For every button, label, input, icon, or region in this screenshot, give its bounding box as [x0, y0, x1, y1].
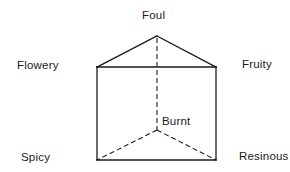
edge-foul-fruity [157, 36, 216, 67]
label-burnt: Burnt [162, 115, 191, 127]
edge-burnt-spicy [97, 130, 157, 160]
label-flowery: Flowery [17, 59, 59, 71]
label-resinous: Resinous [239, 150, 289, 162]
label-fruity: Fruity [242, 58, 272, 70]
label-foul: Foul [142, 9, 165, 21]
odor-prism-diagram: Foul Flowery Fruity Burnt Spicy Resinous [0, 0, 290, 172]
edge-burnt-resinous [157, 130, 216, 160]
label-spicy: Spicy [21, 151, 50, 163]
prism-drawing [0, 0, 290, 172]
edge-foul-flowery [97, 36, 157, 67]
